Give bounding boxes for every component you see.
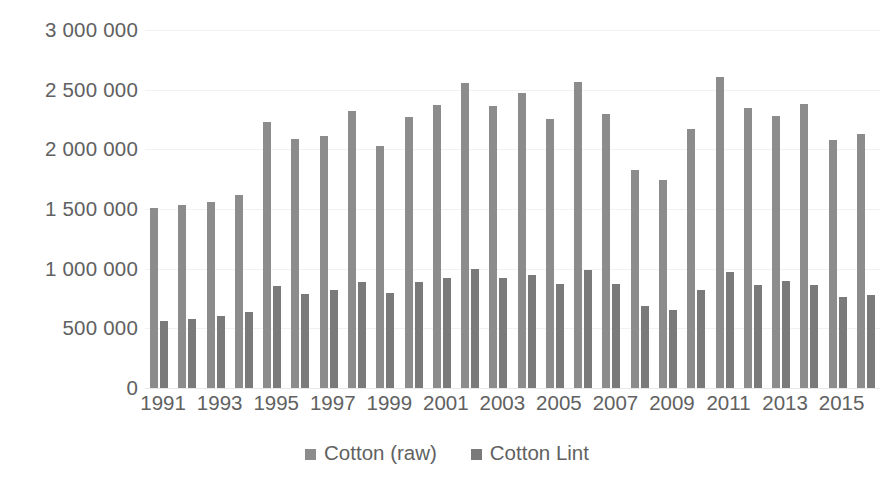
cotton-production-bar-chart: 3 000 0002 500 0002 000 0001 500 0001 00… [0, 0, 894, 488]
bar-group-2012 [744, 30, 762, 388]
bar-cotton-raw-1999[interactable] [376, 146, 384, 388]
bar-group-2009 [659, 30, 677, 388]
x-axis-tick-label: 2007 [593, 392, 639, 415]
bar-cotton-raw-1998[interactable] [348, 111, 356, 388]
bar-group-2016 [857, 30, 875, 388]
bar-group-2004 [518, 30, 536, 388]
bar-cotton-raw-1997[interactable] [320, 136, 328, 388]
bar-group-1997 [320, 30, 338, 388]
bar-cotton-raw-2010[interactable] [687, 129, 695, 388]
x-axis-tick-label: 2001 [423, 392, 469, 415]
bar-cotton-raw-1994[interactable] [235, 195, 243, 388]
bar-cotton-lint-2010[interactable] [697, 290, 705, 388]
bar-cotton-raw-1995[interactable] [263, 122, 271, 388]
x-axis-tick-label: 1995 [253, 392, 299, 415]
y-axis-tick-label: 1 000 000 [45, 258, 138, 279]
bar-cotton-lint-2015[interactable] [839, 297, 847, 388]
bar-cotton-lint-1991[interactable] [160, 321, 168, 388]
bar-cotton-lint-2009[interactable] [669, 310, 677, 388]
bar-cotton-raw-2014[interactable] [800, 104, 808, 388]
bar-cotton-lint-2008[interactable] [641, 306, 649, 388]
bar-cotton-lint-2011[interactable] [726, 272, 734, 388]
bar-cotton-raw-2012[interactable] [744, 108, 752, 388]
bar-group-2013 [772, 30, 790, 388]
bar-cotton-lint-1998[interactable] [358, 282, 366, 388]
bar-cotton-raw-2011[interactable] [716, 77, 724, 388]
bar-cotton-raw-2001[interactable] [433, 105, 441, 388]
bar-cotton-lint-1993[interactable] [217, 316, 225, 388]
bar-cotton-raw-2006[interactable] [574, 82, 582, 388]
bar-cotton-raw-2000[interactable] [405, 117, 413, 388]
bar-cotton-raw-2013[interactable] [772, 116, 780, 388]
bar-group-2008 [631, 30, 649, 388]
bar-cotton-lint-2013[interactable] [782, 281, 790, 388]
bar-group-1994 [235, 30, 253, 388]
bar-group-2014 [800, 30, 818, 388]
plot-area [145, 30, 880, 388]
legend-swatch-cotton-lint [471, 449, 482, 460]
bar-cotton-raw-2004[interactable] [518, 93, 526, 388]
bar-cotton-lint-1996[interactable] [301, 294, 309, 388]
bar-cotton-lint-1994[interactable] [245, 312, 253, 388]
y-axis: 3 000 0002 500 0002 000 0001 500 0001 00… [0, 0, 138, 488]
x-axis-tick-label: 2013 [762, 392, 808, 415]
bar-cotton-lint-2004[interactable] [528, 275, 536, 388]
bar-cotton-lint-2002[interactable] [471, 269, 479, 388]
bar-group-1998 [348, 30, 366, 388]
bar-cotton-raw-1991[interactable] [150, 208, 158, 388]
bar-group-2011 [716, 30, 734, 388]
x-axis: 1991199319951997199920012003200520072009… [145, 392, 880, 428]
bar-cotton-raw-1996[interactable] [291, 139, 299, 388]
bar-group-1995 [263, 30, 281, 388]
y-axis-tick-label: 500 000 [62, 318, 138, 339]
bar-cotton-lint-2014[interactable] [810, 285, 818, 388]
y-axis-tick-label: 2 000 000 [45, 139, 138, 160]
x-axis-tick-label: 1999 [366, 392, 412, 415]
bar-group-2003 [489, 30, 507, 388]
y-axis-tick-label: 3 000 000 [45, 20, 138, 41]
x-axis-tick-label: 2011 [706, 392, 750, 415]
bar-cotton-lint-2000[interactable] [415, 282, 423, 388]
bar-cotton-lint-2016[interactable] [867, 295, 875, 388]
bar-series-container [145, 30, 880, 388]
bar-cotton-lint-1995[interactable] [273, 286, 281, 388]
bar-cotton-lint-2012[interactable] [754, 285, 762, 388]
x-axis-tick-label: 1993 [197, 392, 243, 415]
bar-cotton-raw-2005[interactable] [546, 119, 554, 388]
bar-cotton-lint-2001[interactable] [443, 278, 451, 388]
gridline-0 [145, 388, 880, 389]
bar-group-1992 [178, 30, 196, 388]
bar-cotton-raw-2008[interactable] [631, 170, 639, 388]
bar-group-1991 [150, 30, 168, 388]
bar-group-2006 [574, 30, 592, 388]
bar-cotton-raw-1993[interactable] [207, 202, 215, 388]
bar-cotton-lint-2005[interactable] [556, 284, 564, 388]
x-axis-tick-label: 2009 [649, 392, 695, 415]
bar-cotton-raw-2002[interactable] [461, 83, 469, 388]
bar-group-1996 [291, 30, 309, 388]
bar-cotton-lint-1997[interactable] [330, 290, 338, 388]
bar-cotton-lint-1999[interactable] [386, 293, 394, 388]
bar-cotton-raw-2016[interactable] [857, 134, 865, 388]
chart-legend: Cotton (raw)Cotton Lint [0, 443, 894, 464]
bar-cotton-raw-2015[interactable] [829, 140, 837, 388]
x-axis-tick-label: 2003 [480, 392, 526, 415]
bar-group-2005 [546, 30, 564, 388]
legend-swatch-cotton-raw [305, 449, 316, 460]
bar-cotton-lint-1992[interactable] [188, 319, 196, 388]
bar-cotton-lint-2006[interactable] [584, 270, 592, 388]
legend-item-cotton-lint[interactable]: Cotton Lint [471, 443, 589, 464]
bar-cotton-raw-2003[interactable] [489, 106, 497, 388]
bar-cotton-lint-2003[interactable] [499, 278, 507, 388]
x-axis-tick-label: 2015 [819, 392, 865, 415]
bar-cotton-lint-2007[interactable] [612, 284, 620, 388]
bar-cotton-raw-2009[interactable] [659, 180, 667, 388]
legend-item-cotton-raw[interactable]: Cotton (raw) [305, 443, 437, 464]
x-axis-tick-label: 2005 [536, 392, 582, 415]
bar-cotton-raw-1992[interactable] [178, 205, 186, 388]
legend-label: Cotton Lint [490, 443, 589, 464]
bar-group-1999 [376, 30, 394, 388]
y-axis-tick-label: 2 500 000 [45, 79, 138, 100]
bar-cotton-raw-2007[interactable] [602, 114, 610, 388]
bar-group-2015 [829, 30, 847, 388]
